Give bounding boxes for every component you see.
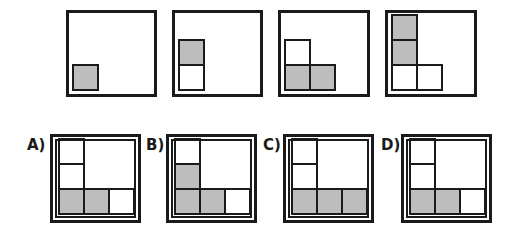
cell-white (291, 138, 318, 165)
option-frame-a[interactable] (50, 134, 141, 223)
cell-white (291, 163, 318, 190)
cell-gray (199, 188, 226, 215)
cell-gray (58, 188, 85, 215)
cell-gray (391, 39, 418, 66)
option-frame-c[interactable] (283, 134, 374, 223)
cell-gray (291, 188, 318, 215)
cell-gray (316, 188, 343, 215)
cell-white (409, 138, 436, 165)
cell-gray (409, 188, 436, 215)
cell-gray (178, 39, 205, 66)
cell-white (409, 163, 436, 190)
option-label-d[interactable]: D) (381, 138, 400, 153)
option-label-b[interactable]: B) (146, 138, 164, 153)
cell-white (224, 188, 251, 215)
option-label-c[interactable]: C) (263, 138, 281, 153)
cell-white (174, 138, 201, 165)
cell-white (391, 64, 418, 91)
sequence-frame-3 (278, 10, 370, 97)
cell-gray (341, 188, 368, 215)
cell-gray (284, 64, 311, 91)
option-frame-b[interactable] (166, 134, 257, 223)
cell-white (284, 39, 311, 66)
cell-gray (174, 163, 201, 190)
option-label-a[interactable]: A) (27, 138, 45, 153)
sequence-frame-1 (66, 10, 157, 97)
cell-gray (174, 188, 201, 215)
sequence-frame-2 (172, 10, 263, 97)
sequence-frame-4 (385, 10, 477, 97)
cell-white (58, 163, 85, 190)
cell-white (459, 188, 486, 215)
cell-white (416, 64, 443, 91)
cell-gray (309, 64, 336, 91)
cell-gray (83, 188, 110, 215)
cell-gray (72, 64, 99, 91)
option-frame-d[interactable] (401, 134, 492, 223)
cell-white (108, 188, 135, 215)
cell-gray (434, 188, 461, 215)
cell-gray (391, 14, 418, 41)
cell-white (178, 64, 205, 91)
cell-white (58, 138, 85, 165)
